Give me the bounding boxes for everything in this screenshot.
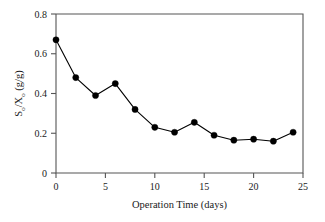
y-tick-label: 0.2	[35, 128, 48, 139]
y-tick-label: 0.8	[35, 9, 48, 20]
y-tick-label: 0	[42, 168, 47, 179]
data-point	[73, 75, 79, 81]
y-tick-label: 0.4	[35, 88, 48, 99]
x-tick-label: 5	[103, 181, 108, 192]
x-tick-label: 10	[150, 181, 160, 192]
x-tick-label: 20	[249, 181, 259, 192]
x-tick-label: 15	[199, 181, 209, 192]
chart-background	[0, 0, 325, 222]
x-tick-label: 0	[54, 181, 59, 192]
y-tick-label: 0.6	[35, 48, 48, 59]
data-point	[191, 119, 197, 125]
data-point	[231, 137, 237, 143]
data-point	[251, 136, 257, 142]
data-point	[53, 37, 59, 43]
chart-figure: 0 0.2 0.4 0.6 0.8 0 5 10 15 20 25 So/Xo …	[0, 0, 325, 222]
data-point	[92, 92, 98, 98]
data-point	[132, 106, 138, 112]
data-point	[112, 80, 118, 86]
x-axis-title: Operation Time (days)	[132, 199, 228, 211]
data-point	[290, 129, 296, 135]
x-tick-label: 25	[298, 181, 308, 192]
data-point	[152, 124, 158, 130]
data-point	[211, 132, 217, 138]
y-axis-title-units: (g/g)	[13, 70, 25, 94]
line-chart: 0 0.2 0.4 0.6 0.8 0 5 10 15 20 25 So/Xo …	[0, 0, 325, 222]
data-point	[270, 138, 276, 144]
data-point	[171, 129, 177, 135]
